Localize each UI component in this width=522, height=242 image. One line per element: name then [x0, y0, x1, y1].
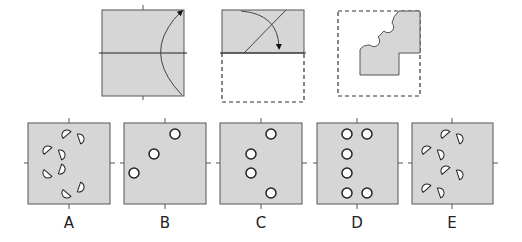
option-label: D: [351, 214, 363, 232]
option-label: C: [256, 214, 266, 232]
option-label: E: [447, 214, 456, 232]
option-label: A: [64, 214, 75, 232]
option-a[interactable]: A: [24, 118, 115, 232]
folded-paper-shape: [360, 11, 420, 75]
option-e[interactable]: E: [408, 118, 498, 232]
option-d[interactable]: D: [313, 118, 403, 232]
puzzle-figure: A B C: [0, 0, 522, 242]
step-1-panel: [99, 5, 187, 100]
step-3-panel: [338, 11, 420, 96]
option-c[interactable]: C: [216, 118, 307, 232]
step-2-panel: [220, 10, 306, 102]
option-b[interactable]: B: [120, 118, 211, 232]
option-label: B: [160, 214, 170, 232]
